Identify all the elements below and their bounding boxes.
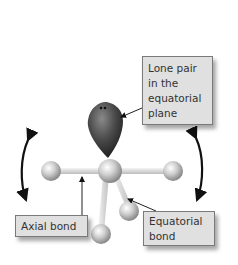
equatorial-bond-label: Equatorial bond (143, 211, 215, 246)
equatorial-atom-right (119, 201, 139, 221)
electron-dot (100, 107, 103, 110)
axial-bond-label: Axial bond (15, 215, 88, 237)
rotation-arrow-right (196, 138, 202, 200)
rotation-arrow-left (22, 140, 28, 200)
equatorial-atom-down (91, 224, 111, 244)
equatorial-bond-down (98, 175, 109, 232)
central-atom (98, 159, 122, 183)
lone-pair-pointer (121, 108, 142, 117)
lone-pair-label: Lone pair in the equatorial plane (142, 56, 213, 125)
axial-atom-left (41, 161, 61, 181)
electron-dot (104, 107, 107, 110)
lone-pair-lobe (88, 102, 123, 158)
axial-atom-right (163, 161, 183, 181)
